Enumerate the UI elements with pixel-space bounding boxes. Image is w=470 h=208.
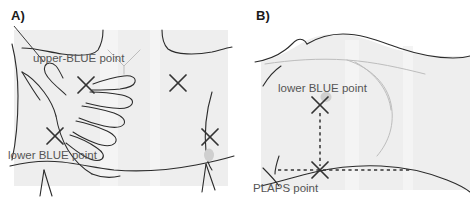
annotation-lower-blue-point: lower BLUE point xyxy=(278,82,368,94)
panel-a-label: A) xyxy=(11,8,25,23)
panel-b-illustration: lower BLUE point PLAPS point xyxy=(235,0,470,208)
annotation-lower-blue-point: lower BLUE point xyxy=(8,149,98,161)
annotation-upper-blue-point: upper-BLUE point xyxy=(33,52,125,64)
annotation-plaps-point: PLAPS point xyxy=(253,182,319,194)
panel-b-label: B) xyxy=(256,8,270,23)
panel-a-illustration: upper-BLUE point lower BLUE point xyxy=(0,0,235,208)
panel-b: B) xyxy=(235,0,470,208)
panel-a: A) xyxy=(0,0,235,208)
figure-container: A) xyxy=(0,0,470,208)
nipple-marker-right xyxy=(204,149,214,162)
